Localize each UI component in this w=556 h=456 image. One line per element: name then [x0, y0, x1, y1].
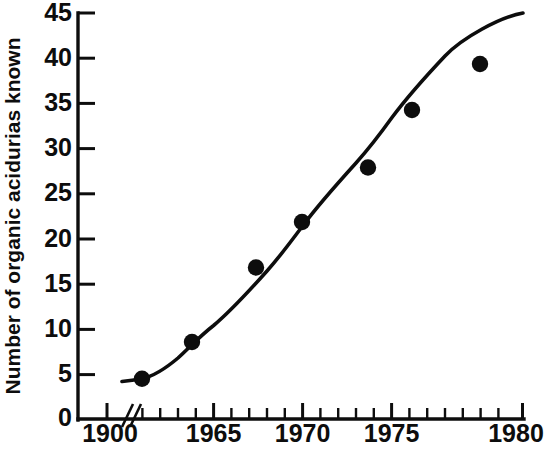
- data-point-1970: [294, 214, 310, 230]
- y-tick-label-25: 25: [44, 178, 72, 206]
- y-tick-label-0: 0: [58, 403, 72, 431]
- line-chart-svg: Number of organic acidurias known 45 40 …: [0, 0, 556, 456]
- x-tick-label-1970: 1970: [275, 419, 331, 447]
- y-tick-label-35: 35: [44, 88, 72, 116]
- y-tick-label-30: 30: [44, 133, 72, 161]
- y-tick-label-5: 5: [58, 359, 72, 387]
- data-point-1978: [472, 56, 488, 72]
- y-tick-label-15: 15: [44, 269, 72, 297]
- x-tick-label-1975: 1975: [364, 419, 420, 447]
- y-axis-title-text: Number of organic acidurias known: [1, 37, 24, 394]
- chart-figure: Number of organic acidurias known 45 40 …: [0, 0, 556, 456]
- y-tick-label-10: 10: [44, 314, 72, 342]
- data-point-1975: [404, 102, 420, 118]
- y-tick-label-40: 40: [44, 43, 72, 71]
- chart-background: [0, 0, 556, 456]
- y-tick-label-20: 20: [44, 224, 72, 252]
- data-point-1973: [360, 159, 376, 175]
- x-tick-label-1900: 1900: [82, 419, 138, 447]
- data-point-1968: [248, 259, 264, 275]
- x-tick-label-1965: 1965: [186, 419, 242, 447]
- data-point-1962: [134, 371, 150, 387]
- x-tick-label-1980: 1980: [488, 419, 544, 447]
- y-axis-title: Number of organic acidurias known: [1, 37, 24, 394]
- y-tick-label-45: 45: [44, 0, 72, 26]
- data-point-1965: [184, 334, 200, 350]
